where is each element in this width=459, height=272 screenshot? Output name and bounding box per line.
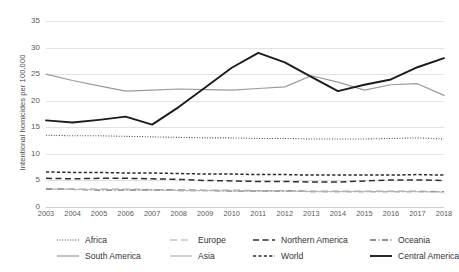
plot-area [46, 21, 444, 207]
x-tick-2017: 2017 [403, 210, 431, 217]
legend-item-asia[interactable]: Asia [170, 248, 215, 264]
legend-label: Europe [198, 236, 226, 245]
y-tick-25: 25 [14, 70, 40, 78]
x-tick-2015: 2015 [350, 210, 378, 217]
x-tick-2012: 2012 [271, 210, 299, 217]
x-tick-2004: 2004 [59, 210, 87, 217]
legend-item-world[interactable]: World [253, 248, 303, 264]
x-tick-2014: 2014 [324, 210, 352, 217]
legend-item-oceania[interactable]: Oceania [370, 232, 430, 248]
legend-swatch-europe-icon [170, 235, 192, 245]
series-line-northern-america [46, 178, 444, 182]
x-tick-2009: 2009 [191, 210, 219, 217]
x-tick-2005: 2005 [85, 210, 113, 217]
y-tick-30: 30 [14, 44, 40, 52]
legend-swatch-northern-america-icon [253, 235, 275, 245]
legend-label: Northern America [281, 236, 348, 245]
legend-label: Africa [85, 236, 107, 245]
y-tick-15: 15 [14, 123, 40, 131]
x-tick-2008: 2008 [165, 210, 193, 217]
x-tick-2006: 2006 [112, 210, 140, 217]
legend-swatch-world-icon [253, 251, 275, 261]
legend-row-1: AfricaEuropeNorthern AmericaOceania [0, 232, 449, 248]
gridline-0 [46, 207, 444, 208]
series-line-africa [46, 135, 444, 139]
y-tick-5: 5 [14, 176, 40, 184]
series-lines [46, 21, 444, 207]
y-tick-35: 35 [14, 17, 40, 25]
legend-swatch-africa-icon [57, 235, 79, 245]
y-tick-20: 20 [14, 97, 40, 105]
chart-legend: AfricaEuropeNorthern AmericaOceania Sout… [0, 232, 449, 272]
legend-label: World [281, 252, 303, 261]
legend-item-northern-america[interactable]: Northern America [253, 232, 348, 248]
legend-swatch-south-america-icon [57, 251, 79, 261]
x-tick-2016: 2016 [377, 210, 405, 217]
x-tick-2003: 2003 [32, 210, 60, 217]
legend-swatch-central-america-icon [370, 251, 392, 261]
x-tick-2007: 2007 [138, 210, 166, 217]
legend-swatch-asia-icon [170, 251, 192, 261]
legend-item-central-america[interactable]: Central America [370, 248, 459, 264]
legend-item-south-america[interactable]: South America [57, 248, 141, 264]
y-tick-10: 10 [14, 150, 40, 158]
y-axis-title: Intentional homicides per 100,000 [18, 28, 27, 198]
legend-swatch-oceania-icon [370, 235, 392, 245]
series-line-world [46, 172, 444, 175]
legend-row-2: South AmericaAsiaWorldCentral America [0, 248, 449, 264]
legend-item-europe[interactable]: Europe [170, 232, 226, 248]
x-tick-2018: 2018 [430, 210, 458, 217]
series-line-south-america [46, 74, 444, 95]
legend-label: Asia [198, 252, 215, 261]
x-tick-2013: 2013 [297, 210, 325, 217]
legend-label: Oceania [398, 236, 430, 245]
legend-label: Central America [398, 252, 459, 261]
legend-item-africa[interactable]: Africa [57, 232, 107, 248]
x-tick-2011: 2011 [244, 210, 272, 217]
x-tick-2010: 2010 [218, 210, 246, 217]
legend-label: South America [85, 252, 141, 261]
